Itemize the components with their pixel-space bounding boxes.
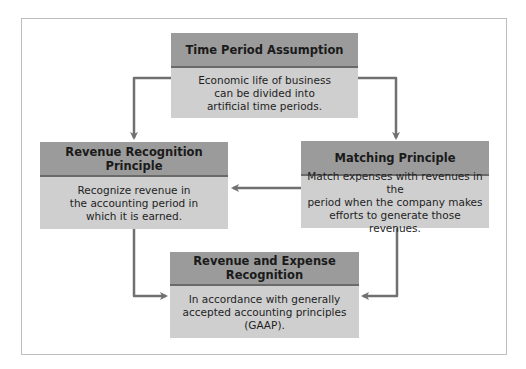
description-line: can be divided into: [214, 87, 315, 100]
revenue-recognition-principle-box: Revenue Recognition Principle Recognize …: [40, 142, 228, 229]
title-line: Revenue and Expense: [193, 254, 335, 268]
box-description: Match expenses with revenues in the peri…: [301, 176, 489, 228]
arrow-revenue-recognition-to-bottom: [134, 229, 166, 296]
title-line: Recognition: [226, 268, 303, 282]
description-line: Match expenses with revenues in the: [303, 170, 487, 196]
description-line: Recognize revenue in: [78, 184, 191, 197]
matching-principle-box: Matching Principle Match expenses with r…: [301, 141, 489, 228]
arrow-time-to-revenue-recognition: [134, 78, 171, 138]
time-period-title: Time Period Assumption: [185, 43, 343, 57]
box-description: In accordance with generally accepted ac…: [170, 286, 359, 338]
description-line: artificial time periods.: [207, 100, 322, 113]
time-period-assumption-box: Time Period Assumption Economic life of …: [171, 33, 358, 118]
box-description: Economic life of business can be divided…: [171, 68, 358, 118]
description-line: the accounting period in: [70, 197, 198, 210]
description-line: which it is earned.: [86, 210, 182, 223]
description-line: In accordance with generally: [189, 293, 341, 306]
revenue-expense-recognition-box: Revenue and Expense Recognition In accor…: [170, 252, 359, 338]
title-line: Revenue Recognition: [65, 145, 202, 159]
title-line: Principle: [106, 159, 163, 173]
description-line: period when the company makes: [307, 196, 482, 209]
description-line: efforts to generate those revenues.: [303, 209, 487, 235]
box-title: Revenue Recognition Principle: [40, 142, 228, 177]
description-line: (GAAP).: [244, 319, 285, 332]
arrow-time-to-matching: [358, 78, 396, 138]
description-line: Economic life of business: [198, 74, 331, 87]
matching-title: Matching Principle: [334, 151, 455, 165]
description-line: accepted accounting principles: [183, 306, 347, 319]
arrow-matching-to-bottom: [363, 228, 397, 296]
box-description: Recognize revenue in the accounting peri…: [40, 177, 228, 229]
box-title: Revenue and Expense Recognition: [170, 252, 359, 286]
box-title: Time Period Assumption: [171, 33, 358, 68]
